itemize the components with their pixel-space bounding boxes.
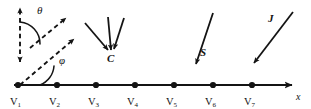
node-label-V3: V3 bbox=[88, 97, 99, 109]
lattice-vector-diagram: V1V2V3V4V5V6V7θφCSJx bbox=[0, 0, 311, 109]
lattice-node-4 bbox=[132, 82, 138, 88]
angle-arc-theta bbox=[20, 22, 40, 44]
lattice-node-7 bbox=[249, 82, 255, 88]
c-vector-right bbox=[114, 18, 124, 49]
x-axis-label: x bbox=[296, 92, 300, 102]
lattice-node-3 bbox=[93, 82, 99, 88]
diagram-canvas bbox=[0, 0, 311, 109]
lattice-node-2 bbox=[54, 82, 60, 88]
angle-label-phi: φ bbox=[59, 55, 65, 66]
c-vector-left bbox=[85, 23, 108, 50]
node-label-V1: V1 bbox=[10, 97, 21, 109]
lower-diagonal-arrow bbox=[20, 39, 74, 85]
angle-arc-phi bbox=[40, 66, 54, 85]
node-label-V4: V4 bbox=[127, 97, 138, 109]
node-label-V5: V5 bbox=[166, 97, 177, 109]
node-label-V6: V6 bbox=[205, 97, 216, 109]
angle-label-theta: θ bbox=[37, 5, 42, 16]
j-label: J bbox=[268, 13, 274, 24]
upper-diagonal-arrow bbox=[30, 18, 66, 48]
lattice-node-6 bbox=[210, 82, 216, 88]
s-label: S bbox=[200, 47, 206, 58]
solid-vectors bbox=[85, 12, 293, 64]
node-label-V7: V7 bbox=[244, 97, 255, 109]
node-label-V2: V2 bbox=[49, 97, 60, 109]
dashed-vectors bbox=[20, 8, 74, 85]
c-vector-middle bbox=[108, 17, 111, 50]
lattice-node-5 bbox=[171, 82, 177, 88]
c-label: C bbox=[107, 53, 114, 64]
